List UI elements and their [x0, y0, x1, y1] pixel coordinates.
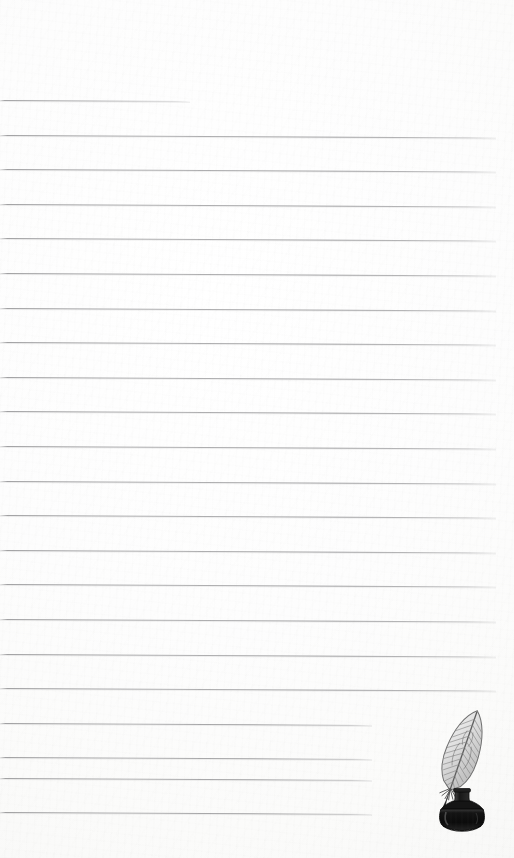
ruled-line — [0, 812, 372, 815]
writing-area[interactable] — [0, 100, 496, 812]
notepaper-page — [0, 0, 514, 858]
